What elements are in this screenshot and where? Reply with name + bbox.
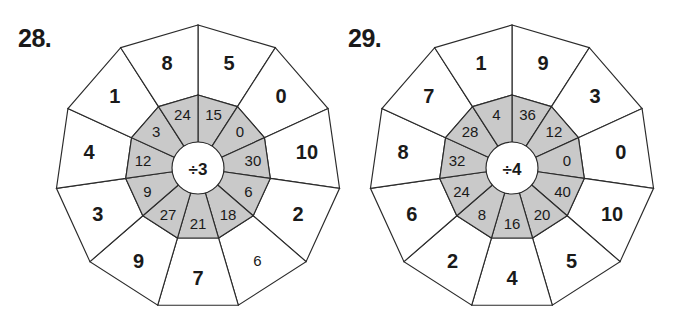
division-wheel-28: ÷3515001030266187219273941213824 <box>0 0 340 335</box>
quotient-value: 8 <box>161 52 172 74</box>
dividend-value: 32 <box>449 152 466 169</box>
dividend-value: 8 <box>478 206 486 223</box>
quotient-value: 6 <box>406 203 417 225</box>
quotient-value: 5 <box>566 250 577 272</box>
dividend-value: 24 <box>174 106 191 123</box>
hub-operator-label: ÷3 <box>189 160 208 179</box>
quotient-value: 2 <box>447 250 458 272</box>
dividend-value: 0 <box>236 123 244 140</box>
dividend-value: 28 <box>462 123 479 140</box>
dividend-value: 21 <box>190 215 207 232</box>
quotient-value: 9 <box>537 52 548 74</box>
quotient-value: 10 <box>296 141 318 163</box>
dividend-value: 15 <box>205 106 222 123</box>
wheel-graphic: ÷49363120010405204162862483272814 <box>340 0 681 335</box>
problem-28: 28. ÷3515001030266187219273941213824 <box>0 0 340 335</box>
dividend-value: 6 <box>244 183 252 200</box>
dividend-value: 36 <box>519 106 536 123</box>
dividend-value: 30 <box>245 152 262 169</box>
dividend-value: 18 <box>220 206 237 223</box>
division-wheel-29: ÷49363120010405204162862483272814 <box>340 0 681 335</box>
hub-operator-label: ÷4 <box>503 160 522 179</box>
dividend-value: 4 <box>492 106 500 123</box>
worksheet-page: 28. ÷3515001030266187219273941213824 29.… <box>0 0 681 335</box>
quotient-value: 8 <box>398 141 409 163</box>
quotient-value: 4 <box>506 267 518 289</box>
dividend-value: 3 <box>152 123 160 140</box>
dividend-value: 40 <box>554 183 571 200</box>
quotient-value: 1 <box>109 85 120 107</box>
dividend-value: 12 <box>135 152 152 169</box>
quotient-value: 4 <box>84 141 96 163</box>
quotient-value: 5 <box>223 52 234 74</box>
quotient-value: 0 <box>276 85 287 107</box>
quotient-value: 1 <box>475 52 486 74</box>
dividend-value: 16 <box>504 215 521 232</box>
quotient-value: 3 <box>590 85 601 107</box>
problem-29: 29. ÷49363120010405204162862483272814 <box>340 0 681 335</box>
dividend-value: 0 <box>563 152 571 169</box>
quotient-value: 0 <box>615 141 626 163</box>
quotient-value: 6 <box>253 252 261 269</box>
dividend-value: 27 <box>160 206 177 223</box>
dividend-value: 12 <box>546 123 563 140</box>
quotient-value: 3 <box>92 203 103 225</box>
quotient-value: 2 <box>293 203 304 225</box>
quotient-value: 7 <box>423 85 434 107</box>
quotient-value: 10 <box>601 203 623 225</box>
dividend-value: 24 <box>453 183 470 200</box>
dividend-value: 20 <box>534 206 551 223</box>
wheel-graphic: ÷3515001030266187219273941213824 <box>0 0 340 335</box>
quotient-value: 9 <box>133 250 144 272</box>
dividend-value: 9 <box>143 183 151 200</box>
quotient-value: 7 <box>192 267 203 289</box>
